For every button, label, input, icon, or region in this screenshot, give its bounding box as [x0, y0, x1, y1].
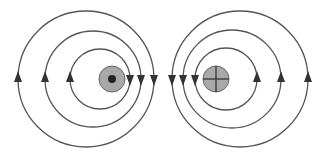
current-out-dot-icon [108, 75, 116, 83]
arrow-down-icon [191, 75, 199, 86]
right-field-line-outer [172, 11, 308, 147]
arrow-up-icon [14, 71, 22, 82]
arrow-up-icon [253, 71, 261, 82]
arrow-up-icon [304, 71, 312, 82]
right-wire-field [168, 11, 312, 147]
arrow-down-icon [150, 75, 158, 86]
arrow-down-icon [179, 75, 187, 86]
arrow-up-icon [277, 71, 285, 82]
left-wire-field [14, 11, 158, 147]
arrow-down-icon [137, 75, 145, 86]
right-field-line-middle [183, 30, 281, 128]
arrow-up-icon [41, 71, 49, 82]
magnetic-field-diagram [0, 0, 327, 160]
left-field-line-middle [45, 31, 141, 127]
arrow-up-icon [66, 71, 74, 82]
arrow-down-icon [168, 75, 176, 86]
arrow-down-icon [126, 75, 134, 86]
